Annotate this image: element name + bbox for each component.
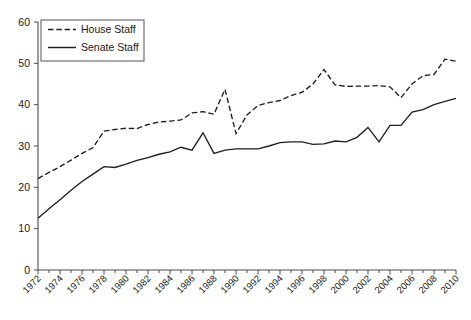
x-tick-label: 2002: [350, 273, 373, 296]
y-tick-label: 60: [18, 16, 30, 28]
y-axis-ticks: 0102030405060: [18, 16, 38, 276]
y-tick-label: 10: [18, 222, 30, 234]
chart-legend: House StaffSenate Staff: [41, 20, 144, 61]
y-tick-label: 50: [18, 57, 30, 69]
y-tick-label: 0: [24, 264, 30, 276]
y-tick-label: 40: [18, 98, 30, 110]
legend-label-senate-staff: Senate Staff: [81, 41, 139, 53]
x-tick-label: 2008: [416, 273, 439, 296]
series-group: [38, 59, 456, 218]
x-tick-label: 2006: [394, 273, 417, 296]
line-chart: 0102030405060 19721974197619781980198219…: [0, 0, 471, 320]
y-tick-label: 30: [18, 140, 30, 152]
x-tick-label: 1992: [240, 273, 263, 296]
x-tick-label: 1996: [284, 273, 307, 296]
x-tick-label: 1984: [152, 273, 175, 296]
x-tick-label: 1976: [64, 273, 87, 296]
x-tick-label: 1982: [130, 273, 153, 296]
legend-label-house-staff: House Staff: [81, 23, 136, 35]
x-tick-label: 2000: [328, 273, 351, 296]
series-line-senate-staff: [38, 98, 456, 218]
x-tick-label: 1978: [86, 273, 109, 296]
x-tick-label: 1988: [196, 273, 219, 296]
x-tick-label: 2010: [438, 273, 461, 296]
x-tick-label: 2004: [372, 273, 395, 296]
chart-canvas: 0102030405060 19721974197619781980198219…: [0, 0, 471, 320]
x-tick-label: 1994: [262, 273, 285, 296]
y-tick-label: 20: [18, 181, 30, 193]
x-tick-label: 1980: [108, 273, 131, 296]
x-tick-label: 1974: [42, 273, 65, 296]
x-tick-label: 1990: [218, 273, 241, 296]
x-tick-label: 1998: [306, 273, 329, 296]
x-tick-label: 1986: [174, 273, 197, 296]
x-tick-label: 1972: [20, 273, 43, 296]
x-axis-ticks: 1972197419761978198019821984198619881990…: [20, 270, 461, 295]
series-line-house-staff: [38, 59, 456, 178]
